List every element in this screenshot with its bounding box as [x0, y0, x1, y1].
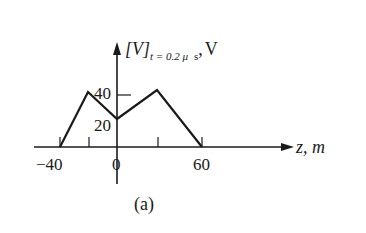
- y-axis-label-subscript-unit: s: [194, 50, 198, 62]
- y-tick-label-40: 40: [94, 85, 111, 102]
- x-tick-label-0: 0: [112, 156, 121, 173]
- voltage-waveform-line: [60, 90, 202, 147]
- y-axis-label-main: [V]: [125, 39, 150, 59]
- y-tick-label-20: 20: [94, 117, 111, 134]
- x-tick-label-60: 60: [193, 156, 210, 173]
- y-axis-label-separator: ,: [198, 39, 203, 59]
- y-axis-label: [V]t = 0.2 μs,V: [125, 40, 218, 58]
- figure-caption: (a): [134, 195, 154, 213]
- diagram-canvas: [0, 0, 366, 233]
- x-tick-label-neg40: −40: [36, 156, 63, 173]
- x-axis-label: z, m: [296, 138, 325, 156]
- y-axis-label-subscript: t = 0.2 μ: [150, 50, 188, 62]
- x-axis-arrow-icon: [281, 143, 294, 151]
- y-axis-arrow-icon: [113, 42, 121, 55]
- y-axis-label-unit: V: [205, 39, 218, 59]
